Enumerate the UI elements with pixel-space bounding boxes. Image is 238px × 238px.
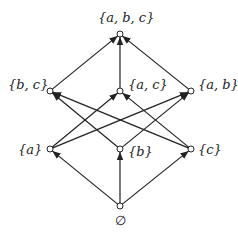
node-c <box>188 146 194 152</box>
node-label-c: {c} <box>198 143 222 156</box>
node-label-bc: {b, c} <box>8 78 48 91</box>
edge-empty-to-a <box>52 151 117 204</box>
node-label-abc: {a, b, c} <box>98 11 154 24</box>
node-label-ac: {a, c} <box>128 78 168 91</box>
node-label-empty: ∅ <box>115 214 126 227</box>
node-label-a: {a} <box>18 143 42 156</box>
edge-bc-to-abc <box>52 36 117 89</box>
node-ac <box>117 88 123 94</box>
node-label-ab: {a, b} <box>198 78 238 91</box>
node-abc <box>117 31 123 37</box>
node-label-b: {b} <box>128 145 153 158</box>
edges <box>52 36 188 204</box>
node-empty <box>117 203 123 209</box>
hasse-diagram <box>0 0 238 238</box>
node-b <box>117 146 123 152</box>
node-ab <box>188 88 194 94</box>
node-a <box>47 146 53 152</box>
